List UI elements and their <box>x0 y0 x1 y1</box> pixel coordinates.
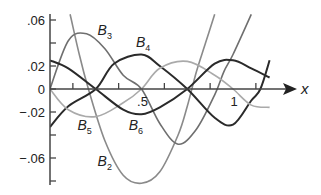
y-tick-label: 0 <box>38 82 45 97</box>
bspline-chart: .06.020−.02−.06 .51 x B2B3B4B5B6 <box>0 0 321 195</box>
axes: .06.020−.02−.06 .51 x <box>19 13 309 185</box>
label-b5: B5 <box>78 117 92 136</box>
label-b2: B2 <box>98 153 112 172</box>
y-tick-label: .02 <box>27 59 45 74</box>
x-tick-label: .5 <box>137 94 148 109</box>
y-tick-label: −.02 <box>19 105 45 120</box>
label-b3: B3 <box>98 22 112 41</box>
x-tick-label: 1 <box>230 94 237 109</box>
label-b4: B4 <box>136 34 150 53</box>
x-axis-label: x <box>300 80 309 97</box>
label-b6: B6 <box>129 117 143 136</box>
y-tick-label: −.06 <box>19 151 45 166</box>
y-tick-label: .06 <box>27 13 45 28</box>
